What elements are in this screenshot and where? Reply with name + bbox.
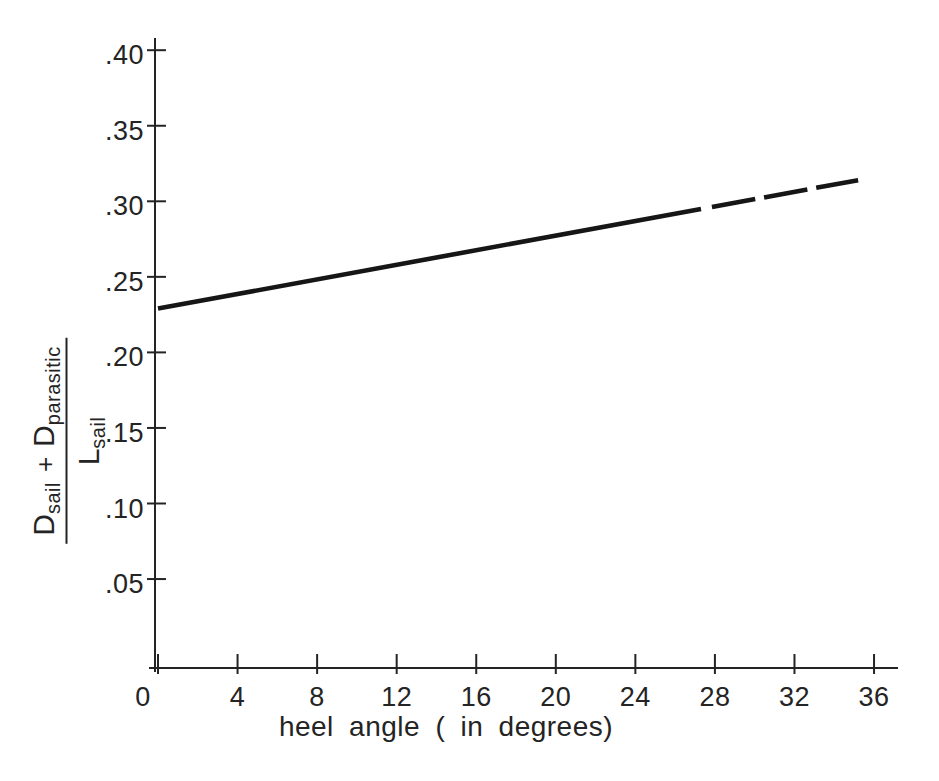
denominator-symbol-l-sail: L [72, 449, 105, 466]
y-axis-label-fraction: Dsail+Dparasitic Lsail [29, 338, 104, 544]
x-axis-label: heel angle ( in degrees) [279, 711, 613, 743]
y-tick-label: .20 [105, 342, 144, 372]
x-tick-label: 4 [230, 682, 246, 712]
x-tick-label: 0 [135, 682, 151, 712]
x-tick-label: 24 [620, 682, 651, 712]
numerator-symbol-d-parasitic: D [27, 425, 60, 447]
x-tick-label: 12 [381, 682, 412, 712]
denominator-subscript-sail: sail [87, 417, 109, 449]
x-tick-label: 8 [309, 682, 325, 712]
data-line-solid [158, 209, 701, 309]
y-axis-label-numerator: Dsail+Dparasitic [29, 338, 68, 544]
x-tick-label: 16 [461, 682, 492, 712]
y-tick-label: .35 [105, 116, 144, 146]
numerator-subscript-sail: sail [42, 482, 64, 514]
y-tick-label: .30 [105, 191, 144, 221]
x-tick-label: 36 [859, 682, 890, 712]
numerator-subscript-parasitic: parasitic [42, 346, 64, 425]
x-tick-label: 20 [540, 682, 571, 712]
y-tick-label: .10 [105, 494, 144, 524]
x-tick-label: 28 [699, 682, 730, 712]
y-tick-label: .25 [105, 267, 144, 297]
plus-sign: + [30, 447, 60, 482]
numerator-symbol-d-sail: D [27, 514, 60, 536]
y-axis-label-denominator: Lsail [68, 338, 104, 544]
figure: .05.10.15.20.25.30.35.400481216202428323… [0, 0, 939, 781]
y-tick-label: .15 [105, 418, 144, 448]
x-tick-label: 32 [779, 682, 810, 712]
y-tick-label: .05 [105, 569, 144, 599]
y-tick-label: .40 [105, 40, 144, 70]
chart-canvas: .05.10.15.20.25.30.35.400481216202428323… [0, 0, 939, 781]
data-line-dashed [712, 180, 858, 207]
